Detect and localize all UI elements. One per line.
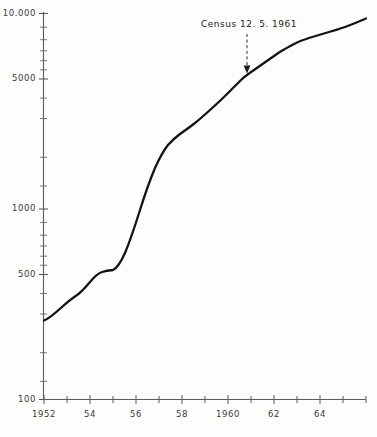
y-tick-label-500: 500 [0, 269, 36, 279]
x-tick-label-64: 64 [302, 409, 338, 419]
y-tick-label-100: 100 [0, 394, 36, 404]
y-tick-label-10000: 10.000 [0, 8, 36, 18]
x-tick-label-1960: 1960 [208, 409, 248, 419]
census-annotation-label: Census 12. 5. 1961 [201, 19, 297, 29]
y-tick-label-1000: 1000 [0, 203, 36, 213]
x-tick-label-62: 62 [256, 409, 292, 419]
x-tick-label-58: 58 [164, 409, 200, 419]
x-tick-label-1952: 1952 [24, 409, 64, 419]
x-tick-label-56: 56 [118, 409, 154, 419]
chart-canvas [0, 0, 377, 437]
data-series-line [44, 19, 366, 321]
chart-figure: 10.000 5000 1000 500 100 1952 54 56 58 1… [0, 0, 377, 437]
x-tick-label-54: 54 [72, 409, 108, 419]
y-tick-label-5000: 5000 [0, 73, 36, 83]
census-arrow [244, 34, 251, 74]
